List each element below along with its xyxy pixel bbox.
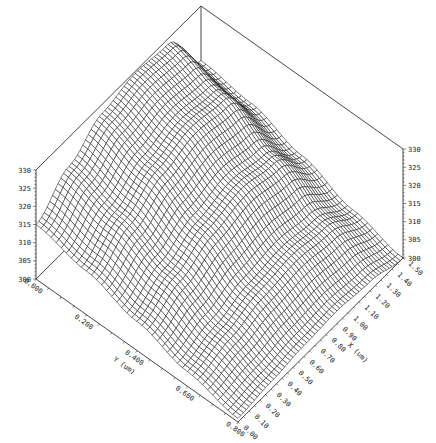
- x-tick-label: 1.50: [407, 260, 425, 278]
- y-tick: [98, 324, 99, 326]
- x-axis-label: X (um): [346, 341, 370, 365]
- y-tick-label: 0.000: [22, 277, 44, 296]
- x-tick: [326, 335, 328, 337]
- x-tick: [370, 291, 372, 293]
- x-tick: [310, 351, 312, 353]
- surface-mesh: [36, 42, 403, 418]
- z-axis-right: 300305310315320325330: [403, 146, 421, 263]
- y-tick: [73, 306, 74, 308]
- z-tick-label-right: 310: [408, 218, 421, 226]
- x-tick-label: 1.00: [352, 314, 370, 332]
- y-tick-label: 0.600: [174, 384, 196, 403]
- x-tick: [348, 313, 350, 315]
- y-tick: [148, 359, 149, 361]
- x-tick-label: 0.90: [341, 325, 359, 343]
- x-tick: [288, 373, 290, 375]
- z-tick-label-left: 320: [18, 203, 31, 211]
- y-tick: [224, 413, 225, 415]
- x-tick: [282, 378, 284, 380]
- z-tick-label-left: 325: [18, 185, 31, 193]
- x-tick-label: 0.50: [297, 369, 315, 387]
- y-tick: [85, 315, 86, 317]
- y-tick: [136, 351, 137, 353]
- x-tick: [376, 285, 378, 287]
- x-tick: [271, 389, 273, 391]
- x-tick: [315, 345, 317, 347]
- y-tick: [237, 422, 238, 424]
- z-tick-label-left: 315: [18, 221, 31, 229]
- x-tick: [277, 384, 279, 386]
- x-tick: [249, 411, 251, 413]
- x-tick: [255, 406, 257, 408]
- x-tick: [343, 318, 345, 320]
- x-tick: [244, 417, 246, 419]
- x-tick: [398, 263, 400, 265]
- y-tick-label: 0.200: [73, 313, 95, 332]
- x-tick-label: 0.20: [264, 402, 282, 420]
- x-tick: [381, 280, 383, 282]
- x-tick: [299, 362, 301, 364]
- z-tick-label-left: 330: [18, 167, 31, 175]
- x-tick-label: 1.30: [385, 282, 403, 300]
- z-tick-label-right: 320: [408, 182, 421, 190]
- x-tick: [354, 307, 356, 309]
- y-tick: [47, 288, 48, 290]
- x-tick-label: 0.60: [308, 358, 326, 376]
- x-tick: [321, 340, 323, 342]
- x-tick-label: 1.40: [396, 271, 414, 289]
- z-tick-label-left: 305: [18, 257, 31, 265]
- x-tick-label: 1.10: [363, 304, 381, 322]
- z-tick-label-right: 325: [408, 164, 421, 172]
- x-tick-label: 1.20: [374, 293, 392, 311]
- y-tick: [60, 297, 61, 299]
- z-tick-label-right: 330: [408, 146, 421, 154]
- x-tick-label: 0.40: [286, 380, 304, 398]
- z-tick-label-left: 310: [18, 239, 31, 247]
- x-tick: [238, 422, 240, 424]
- surface-plot: 300305310315320325330 300305310315320325…: [0, 0, 436, 443]
- x-tick: [266, 395, 268, 397]
- x-tick-label: 0.10: [253, 413, 271, 431]
- y-tick: [199, 395, 200, 397]
- y-tick: [212, 404, 213, 406]
- x-tick-label: 0.70: [319, 347, 337, 365]
- y-tick: [111, 333, 112, 335]
- x-tick: [332, 329, 334, 331]
- x-tick: [304, 356, 306, 358]
- y-tick: [174, 377, 175, 379]
- y-tick: [186, 386, 187, 388]
- z-tick-label-right: 315: [408, 200, 421, 208]
- x-tick: [365, 296, 367, 298]
- x-tick-label: 0.80: [330, 336, 348, 354]
- x-tick: [359, 302, 361, 304]
- x-tick-label: 0.30: [275, 391, 293, 409]
- x-tick: [392, 269, 394, 271]
- x-tick: [293, 367, 295, 369]
- z-axis-left: 300305310315320325330: [18, 167, 36, 284]
- x-tick: [387, 274, 389, 276]
- z-tick-label-right: 305: [408, 236, 421, 244]
- x-tick: [337, 324, 339, 326]
- x-tick: [260, 400, 262, 402]
- y-tick: [123, 342, 124, 344]
- y-tick: [161, 368, 162, 370]
